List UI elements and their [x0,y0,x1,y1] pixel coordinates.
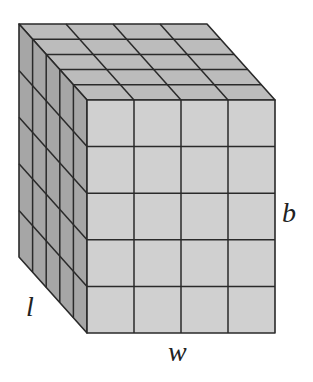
width-label: w [168,338,187,366]
height-label: b [282,199,296,227]
cuboid-diagram [0,0,313,382]
unit-cube-cuboid [0,0,313,382]
length-label: l [26,293,34,321]
